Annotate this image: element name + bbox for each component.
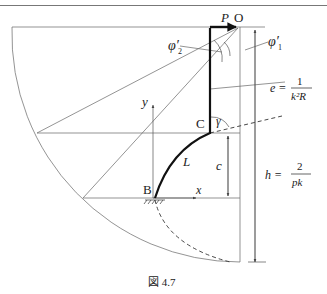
label-phi2-sub: 2 — [178, 47, 182, 56]
label-l: L — [182, 154, 190, 169]
label-e: e = — [270, 81, 286, 95]
fixed-support — [144, 200, 165, 204]
label-p: P — [220, 10, 229, 25]
rod — [155, 28, 210, 198]
label-h-num: 2 — [297, 160, 303, 172]
dashed-curve — [155, 116, 282, 262]
label-c-dim: c — [216, 158, 222, 173]
label-phi1-sub: 1 — [278, 43, 282, 52]
label-o: O — [234, 10, 243, 25]
label-h-den: pk — [291, 176, 304, 188]
diagram-figure: P O φ′ 2 φ′ 1 e = 1 k²R y C γ L c B x h … — [0, 0, 327, 294]
label-e-den: k²R — [291, 90, 306, 102]
construction-lines — [12, 27, 285, 262]
label-c-point: C — [196, 116, 205, 131]
figure-caption: 図 4.7 — [148, 276, 176, 288]
label-b: B — [143, 182, 152, 197]
label-gamma: γ — [216, 114, 221, 128]
label-x-axis: x — [195, 183, 202, 197]
label-h: h = — [265, 168, 282, 182]
label-y-axis: y — [140, 94, 148, 109]
label-e-num: 1 — [297, 75, 303, 87]
